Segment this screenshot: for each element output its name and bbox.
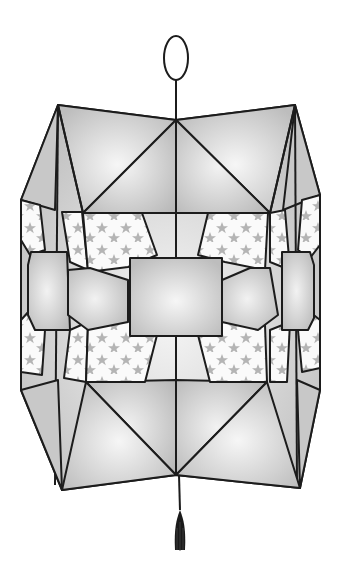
hanging-loop <box>164 36 188 120</box>
lantern-svg <box>0 0 338 587</box>
lantern-illustration: paper lantern illustration <box>0 0 338 587</box>
center-window <box>130 258 222 336</box>
tassel <box>175 475 186 551</box>
